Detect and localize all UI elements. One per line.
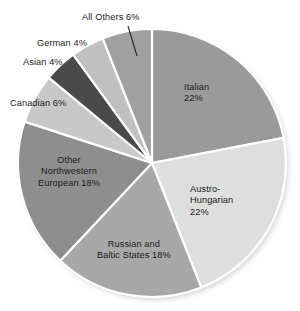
slice-label-other-nw-line3: European 18% <box>38 178 100 189</box>
slice-label-other-nw-line2: Northwestern <box>38 166 100 177</box>
slice-label-italian: Italian 22% <box>184 82 209 105</box>
slice-label-italian-line1: Italian <box>184 82 209 93</box>
slice-label-asian: Asian 4% <box>23 57 63 68</box>
slice-label-asian-line1: Asian 4% <box>23 57 63 68</box>
slice-label-german-line1: German 4% <box>37 38 87 49</box>
slice-label-german: German 4% <box>37 38 87 49</box>
slice-label-russian-baltic: Russian and Baltic States 18% <box>97 239 171 262</box>
slice-label-italian-line2: 22% <box>184 93 209 104</box>
slice-label-other-nw-line1: Other <box>38 155 100 166</box>
slice-label-austro-line1: Austro- <box>190 184 233 195</box>
slice-label-all-others: All Others 6% <box>82 12 139 23</box>
slice-label-other-northwestern-european: Other Northwestern European 18% <box>38 155 100 189</box>
pie-chart: Italian 22% Austro- Hungarian 22% Russia… <box>0 0 300 311</box>
slice-label-canadian: Canadian 6% <box>10 98 66 109</box>
slice-label-austro-line2: Hungarian <box>190 195 233 206</box>
slice-label-russian-line1: Russian and <box>97 239 171 250</box>
slice-label-austro-hungarian: Austro- Hungarian 22% <box>190 184 233 218</box>
slice-label-canadian-line1: Canadian 6% <box>10 98 66 109</box>
slice-label-russian-line2: Baltic States 18% <box>97 250 171 261</box>
slice-label-austro-line3: 22% <box>190 207 233 218</box>
slice-label-all-others-line1: All Others 6% <box>82 12 139 23</box>
